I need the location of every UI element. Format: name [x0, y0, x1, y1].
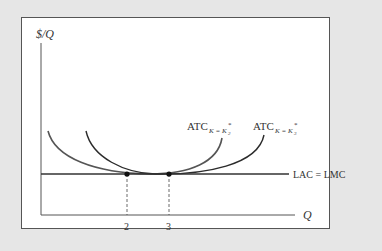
- atc-k2-sub-index: 2: [228, 131, 231, 136]
- atc-k2-main: ATC: [187, 120, 208, 132]
- figure: $/Q Q 2 3 LAC = LMC ATC K = K 2 * ATC K …: [0, 0, 382, 251]
- atc-k3-star: *: [294, 121, 298, 129]
- tick-label-3: 3: [166, 221, 171, 232]
- point-q3: [166, 171, 171, 176]
- atc-curve-k2: [48, 131, 222, 174]
- atc-k2-star: *: [228, 121, 232, 129]
- y-axis-label: $/Q: [36, 27, 54, 41]
- atc-k3-label: ATC K = K 3 *: [253, 120, 298, 136]
- lac-lmc-label: LAC = LMC: [293, 169, 346, 180]
- chart-svg: $/Q Q 2 3 LAC = LMC ATC K = K 2 * ATC K …: [0, 0, 382, 251]
- point-q2: [124, 171, 129, 176]
- tick-label-2: 2: [124, 221, 129, 232]
- atc-k3-main: ATC: [253, 120, 274, 132]
- atc-k2-sub: K = K: [208, 127, 227, 135]
- x-axis-label: Q: [303, 208, 312, 222]
- atc-curve-k3: [86, 131, 264, 174]
- atc-k3-sub: K = K: [274, 127, 293, 135]
- atc-k3-sub-index: 3: [294, 131, 297, 136]
- atc-k2-label: ATC K = K 2 *: [187, 120, 232, 136]
